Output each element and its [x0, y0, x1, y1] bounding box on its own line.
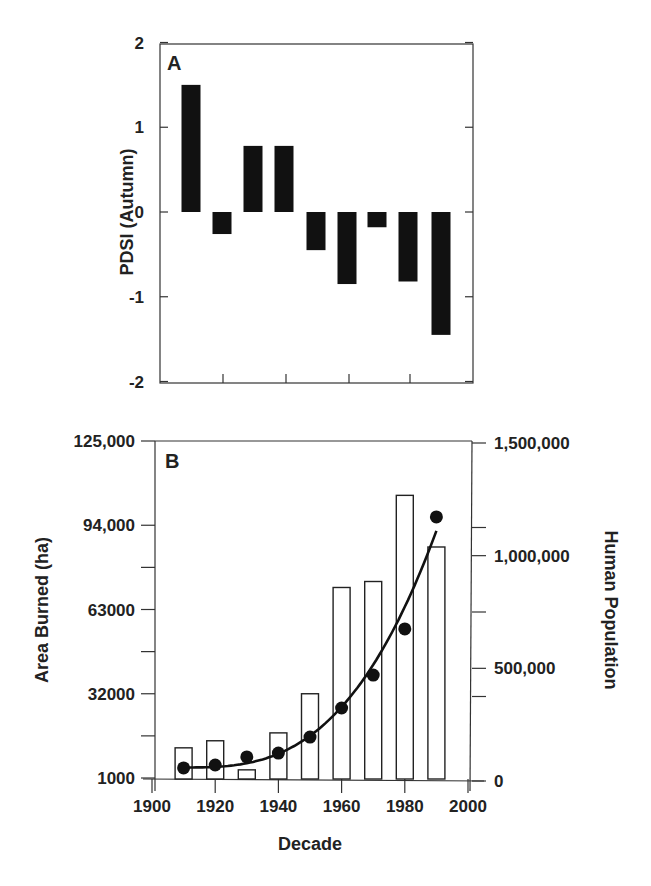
right-y-tick-label: 1,500,000	[494, 434, 570, 453]
x-tick-label: 1960	[323, 797, 361, 816]
right-y-axis	[470, 441, 472, 791]
y-tick-label: -2	[129, 373, 144, 392]
right-y-tick-label: 500,000	[494, 659, 555, 678]
left-y-tick-label: 125,000	[74, 432, 135, 451]
population-point-1920	[209, 759, 222, 772]
bar-1950	[307, 212, 326, 250]
x-tick-label: 2000	[449, 797, 487, 816]
x-tick-label: 1980	[386, 797, 424, 816]
left-y-tick-label: 32000	[88, 685, 135, 704]
bar-1930	[244, 146, 263, 212]
left-y-tick-label: 94,000	[83, 516, 135, 535]
figure: A210-1-2PDSI (Autumn)B125,00094,00063000…	[0, 0, 651, 886]
bar-1910	[182, 85, 201, 212]
right-y-tick-label: 1,000,000	[494, 547, 570, 566]
bar-1980	[399, 212, 418, 281]
bar-1960	[338, 212, 357, 284]
population-point-1930	[240, 750, 253, 763]
y-tick-label: 2	[135, 34, 144, 53]
left-y-axis-title: Area Burned (ha)	[32, 537, 52, 683]
population-point-1970	[367, 669, 380, 682]
population-point-1940	[272, 747, 285, 760]
right-y-axis-title: Human Population	[601, 531, 621, 690]
bar-1940	[275, 146, 294, 212]
left-y-tick-label: 1000	[97, 769, 135, 788]
population-point-1910	[177, 761, 190, 774]
panel-b: B125,00094,000630003200010001,500,0001,0…	[32, 432, 621, 854]
x-tick-label: 1920	[196, 797, 234, 816]
left-y-tick-label: 63000	[88, 601, 135, 620]
panel-a-label: A	[167, 52, 181, 74]
y-tick-label: -1	[129, 288, 144, 307]
population-point-1980	[398, 622, 411, 635]
population-point-1990	[430, 510, 443, 523]
x-tick-label: 1940	[259, 797, 297, 816]
area-bar-1980	[396, 495, 413, 779]
population-point-1950	[304, 731, 317, 744]
panel-a-y-axis-title: PDSI (Autumn)	[117, 149, 137, 276]
y-tick-label: 1	[135, 118, 144, 137]
area-bar-1930	[238, 770, 255, 779]
panel-a: A210-1-2PDSI (Autumn)	[117, 34, 473, 392]
panel-b-label: B	[165, 450, 179, 472]
bar-1970	[368, 212, 387, 227]
bar-1920	[213, 212, 232, 234]
bar-1990	[432, 212, 451, 335]
population-point-1960	[335, 701, 348, 714]
x-axis-title: Decade	[278, 834, 342, 854]
x-tick-label: 1900	[133, 797, 171, 816]
area-bar-1990	[428, 547, 445, 779]
area-bar-1960	[333, 587, 350, 779]
right-y-tick-label: 0	[494, 772, 503, 791]
